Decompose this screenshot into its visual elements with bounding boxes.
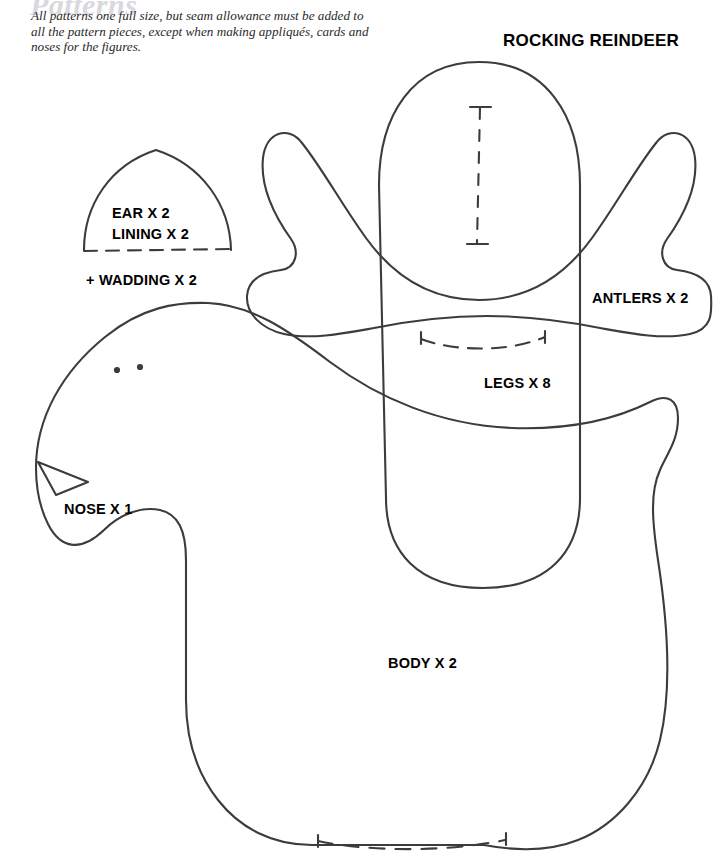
body-outline — [36, 303, 678, 849]
nose-label: NOSE X 1 — [64, 501, 133, 517]
body-eye-left — [114, 367, 120, 373]
body-label: BODY X 2 — [388, 655, 457, 671]
ear-lining-label: LINING X 2 — [112, 226, 189, 242]
legs-label: LEGS X 8 — [484, 375, 551, 391]
antlers-label: ANTLERS X 2 — [592, 290, 688, 306]
legs-centre-line — [477, 108, 480, 243]
pattern-sheet: Patterns All patterns one full size, but… — [0, 0, 718, 861]
nose-piece — [38, 462, 88, 495]
ear-label: EAR X 2 — [112, 205, 170, 221]
body-eye-right — [137, 364, 143, 370]
legs-stitch-line — [421, 337, 545, 349]
project-title: ROCKING REINDEER — [503, 31, 679, 51]
nose-outline — [38, 462, 88, 495]
pattern-drawing — [0, 0, 718, 861]
ear-fold-line — [84, 249, 231, 251]
legs-piece — [379, 62, 580, 588]
ear-wadding-label: + WADDING X 2 — [86, 272, 197, 288]
body-piece — [36, 303, 678, 849]
